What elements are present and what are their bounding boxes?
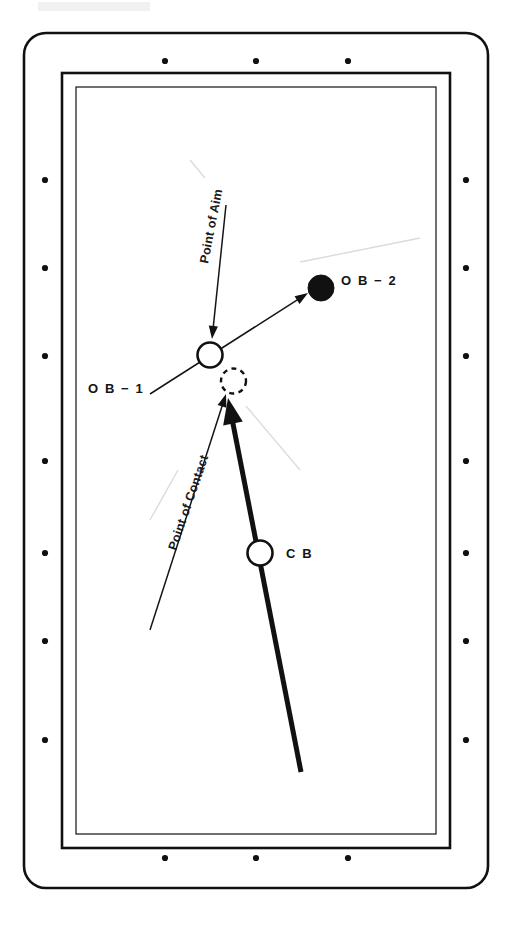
object-ball-1-label: O B − 1 xyxy=(88,381,144,396)
rail-sight-diamond-bottom xyxy=(253,855,259,861)
rail-sight-diamond-left xyxy=(42,265,48,271)
rail-sight-diamond-right xyxy=(463,550,469,556)
billiards-diagram: O B − 1O B − 2C B Point of AimPoint of C… xyxy=(0,0,512,925)
rail-sight-diamond-left xyxy=(42,353,48,359)
rail-sight-diamond-left xyxy=(42,458,48,464)
object-ball-1 xyxy=(198,343,223,368)
cue-ball xyxy=(248,541,273,566)
rail-sight-diamond-left xyxy=(42,550,48,556)
rail-sight-diamond-bottom xyxy=(162,855,168,861)
rail-sight-diamond-right xyxy=(463,353,469,359)
object-ball-2-label: O B − 2 xyxy=(341,273,397,288)
scan-noise-artifact xyxy=(38,2,150,11)
rail-sight-diamond-top xyxy=(253,58,259,64)
rail-sight-diamond-left xyxy=(42,177,48,183)
rail-sight-diamond-right xyxy=(463,638,469,644)
rail-sight-diamond-bottom xyxy=(345,855,351,861)
billiards-table-svg: O B − 1O B − 2C B Point of AimPoint of C… xyxy=(0,0,512,925)
rail-sight-diamond-left xyxy=(42,737,48,743)
rail-sight-diamond-right xyxy=(463,265,469,271)
cue-ball-label: C B xyxy=(286,546,313,561)
table-rails xyxy=(24,33,488,888)
rail-sight-diamond-top xyxy=(345,58,351,64)
object-ball-2 xyxy=(308,275,334,301)
rail-sight-diamond-right xyxy=(463,177,469,183)
rail-sight-diamond-right xyxy=(463,458,469,464)
rail-sight-diamond-top xyxy=(162,58,168,64)
outer-rail-outline xyxy=(24,33,488,888)
rail-sight-diamond-right xyxy=(463,737,469,743)
rail-sight-diamond-left xyxy=(42,638,48,644)
